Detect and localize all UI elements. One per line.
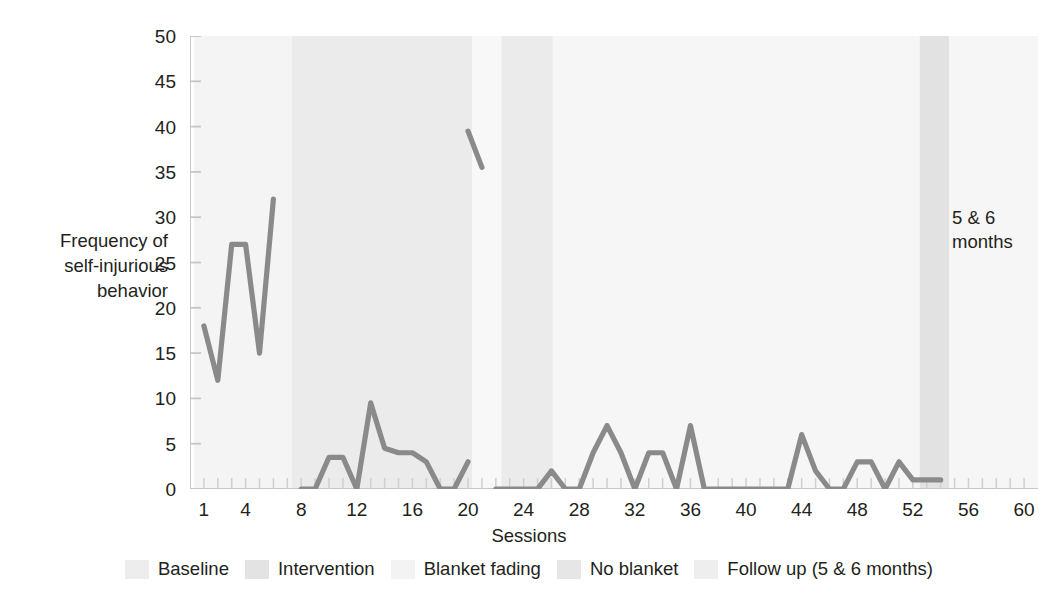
y-tick-label: 0 <box>136 480 176 499</box>
x-tick-label: 40 <box>726 500 766 519</box>
phase-band <box>194 36 291 489</box>
y-tick-label: 15 <box>136 344 176 363</box>
x-tick-label: 60 <box>1004 500 1044 519</box>
chart-figure: Frequency of self-injurious behavior 051… <box>0 0 1058 612</box>
legend-item[interactable]: Follow up (5 & 6 months) <box>694 559 933 579</box>
y-tick-label: 10 <box>136 389 176 408</box>
legend-item[interactable]: Baseline <box>125 559 229 579</box>
phase-band <box>553 36 920 489</box>
phase-band <box>501 36 552 489</box>
x-tick-label: 48 <box>837 500 877 519</box>
phase-band <box>920 36 949 489</box>
y-tick-label: 45 <box>136 72 176 91</box>
legend-item[interactable]: Intervention <box>245 559 375 579</box>
x-tick-label: 8 <box>281 500 321 519</box>
x-tick-label: 36 <box>670 500 710 519</box>
y-tick-label: 20 <box>136 299 176 318</box>
x-tick-label: 1 <box>184 500 224 519</box>
phase-bands <box>194 36 1038 489</box>
legend-label: Follow up (5 & 6 months) <box>727 559 933 579</box>
y-tick-label: 30 <box>136 208 176 227</box>
x-tick-label: 20 <box>448 500 488 519</box>
plot-area <box>190 36 1038 489</box>
legend-label: Blanket fading <box>424 559 541 579</box>
y-tick-label: 5 <box>136 435 176 454</box>
y-tick-label: 40 <box>136 118 176 137</box>
x-tick-label: 12 <box>337 500 377 519</box>
x-tick-label: 44 <box>782 500 822 519</box>
legend-item[interactable]: Blanket fading <box>391 559 541 579</box>
legend-item[interactable]: No blanket <box>557 559 678 579</box>
y-tick-label: 25 <box>136 254 176 273</box>
legend-swatch <box>557 560 581 579</box>
phase-band <box>949 36 1038 489</box>
legend-label: Baseline <box>158 559 229 579</box>
x-tick-label: 4 <box>226 500 266 519</box>
legend-label: Intervention <box>278 559 375 579</box>
x-axis-title: Sessions <box>0 525 1058 547</box>
phase-band <box>291 36 472 489</box>
annotation-5-and-6-months: 5 & 6 months <box>952 206 1048 254</box>
phase-band <box>472 36 501 489</box>
y-tick-label: 35 <box>136 163 176 182</box>
chart-legend: BaselineInterventionBlanket fadingNo bla… <box>0 559 1058 579</box>
x-tick-label: 24 <box>504 500 544 519</box>
x-tick-label: 32 <box>615 500 655 519</box>
x-tick-label: 28 <box>559 500 599 519</box>
legend-swatch <box>391 560 415 579</box>
x-tick-label: 52 <box>893 500 933 519</box>
legend-label: No blanket <box>590 559 678 579</box>
y-tick-label: 50 <box>136 27 176 46</box>
legend-swatch <box>245 560 269 579</box>
x-tick-label: 56 <box>948 500 988 519</box>
x-tick-label: 16 <box>392 500 432 519</box>
legend-swatch <box>125 560 149 579</box>
legend-swatch <box>694 560 718 579</box>
